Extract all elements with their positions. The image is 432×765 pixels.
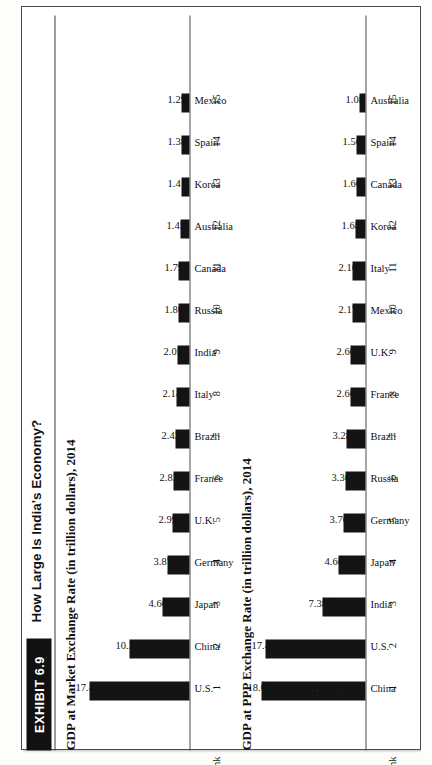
bar-value-label: 1.45 (166, 219, 184, 230)
rank-label: 11 (386, 246, 397, 288)
bar-slot: 1.38 (83, 120, 189, 162)
rank-column-header-market: Rank (210, 756, 221, 765)
scan-speckle (228, 207, 229, 208)
bar-value-label: 18.02 (247, 681, 271, 692)
scan-speckle (76, 262, 77, 263)
scan-speckle (206, 288, 207, 289)
scan-speckle (328, 593, 329, 594)
rank-label: 12 (210, 204, 221, 246)
scan-speckle (368, 705, 369, 706)
scan-speckle (193, 98, 194, 99)
scan-speckle (287, 150, 288, 151)
scan-speckle (235, 305, 236, 306)
bar (89, 681, 189, 700)
scan-speckle (225, 358, 226, 359)
scan-speckle (55, 519, 56, 520)
bar-value-label: 1.38 (167, 135, 185, 146)
bar-slot: 3.28 (259, 414, 365, 456)
bar-slot: 1.56 (259, 120, 365, 162)
scan-speckle (294, 220, 295, 221)
rank-label: 15 (386, 78, 397, 120)
scan-speckle (25, 137, 26, 138)
bar-value-label: 1.41 (167, 177, 185, 188)
rank-label: 10 (210, 288, 221, 330)
rank-label: 4 (210, 540, 221, 582)
bar-slot: 2.42 (83, 414, 189, 456)
scan-speckle (401, 283, 402, 284)
scan-speckle (184, 744, 185, 745)
axis-baseline-market (189, 15, 190, 750)
scan-speckle (133, 11, 134, 12)
bar-group-market: 17.4210.354.603.872.992.832.422.142.051.… (83, 15, 189, 750)
exhibit-content: EXHIBIT 6.9 How Large Is India's Economy… (20, 15, 412, 750)
scan-speckle (257, 166, 258, 167)
bar-slot: 1.68 (259, 204, 365, 246)
scan-speckle (70, 251, 71, 252)
bar-slot: 2.05 (83, 330, 189, 372)
chart-title-ppp: GDP at PPP Exchange Rate (in trillion do… (238, 458, 254, 750)
chart-panel-ppp-exchange-rate: GDP at PPP Exchange Rate (in trillion do… (238, 15, 410, 750)
bar-value-label: 2.99 (158, 513, 176, 524)
scan-speckle (261, 643, 262, 644)
bar-slot: 2.99 (83, 498, 189, 540)
scan-speckle (222, 333, 223, 334)
scan-speckle (122, 579, 123, 580)
chart-panel-market-exchange-rate: GDP at Market Exchange Rate (in trillion… (62, 15, 234, 750)
rank-label: 14 (386, 120, 397, 162)
bar-slot: 1.60 (259, 162, 365, 204)
scan-speckle (192, 36, 193, 37)
scan-speckle (174, 388, 175, 389)
chart-title-market: GDP at Market Exchange Rate (in trillion… (62, 439, 78, 750)
rank-label: 11 (210, 246, 221, 288)
bar-value-label: 3.28 (332, 429, 350, 440)
rank-label: 13 (210, 162, 221, 204)
scanned-page: EXHIBIT 6.9 How Large Is India's Economy… (0, 0, 432, 765)
bar-slot: 17.42 (259, 624, 365, 666)
scan-speckle (123, 732, 124, 733)
exhibit-badge: EXHIBIT 6.9 (26, 638, 51, 750)
axis-baseline-ppp (365, 15, 366, 750)
bar-slot: 2.17 (259, 288, 365, 330)
header-rule (54, 15, 55, 750)
bar-value-label: 2.60 (336, 345, 354, 356)
bar-value-label: 2.16 (338, 261, 356, 272)
rank-label: 13 (386, 162, 397, 204)
scan-speckle (384, 479, 385, 480)
scan-speckle (242, 428, 243, 429)
scan-speckle (241, 221, 242, 222)
scan-speckle (62, 98, 63, 99)
rank-label: 7 (386, 414, 397, 456)
scan-speckle (81, 189, 82, 190)
rank-column-header-ppp: Rank (386, 756, 397, 765)
scan-speckle (321, 346, 322, 347)
bar-slot: 4.60 (83, 582, 189, 624)
scan-speckle (38, 330, 39, 331)
scan-speckle (365, 389, 366, 390)
rank-label: 3 (386, 582, 397, 624)
scan-speckle (107, 429, 108, 430)
scan-speckle (127, 378, 128, 379)
exhibit-header: EXHIBIT 6.9 How Large Is India's Economy… (26, 15, 56, 750)
rank-label: 7 (210, 414, 221, 456)
bar-value-label: 2.05 (163, 345, 181, 356)
scan-speckle (348, 121, 349, 122)
scan-speckle (400, 14, 401, 15)
bar-value-label: 4.66 (324, 555, 342, 566)
scan-speckle (69, 153, 70, 154)
scan-speckle (198, 21, 199, 22)
rank-label: 8 (386, 372, 397, 414)
scan-speckle (77, 582, 78, 583)
rank-label: 9 (210, 330, 221, 372)
rank-label: 8 (210, 372, 221, 414)
rank-label: 2 (386, 624, 397, 666)
bar-slot: 2.83 (83, 456, 189, 498)
bar-value-label: 17.42 (75, 681, 99, 692)
scan-speckle (93, 216, 94, 217)
rank-label: 5 (386, 498, 397, 540)
bar-value-label: 2.42 (161, 429, 179, 440)
bar-slot: 10.35 (83, 624, 189, 666)
bar-value-label: 10.35 (115, 639, 139, 650)
scan-speckle (378, 193, 379, 194)
scan-speckle (382, 458, 383, 459)
bar-value-label: 1.60 (342, 177, 360, 188)
